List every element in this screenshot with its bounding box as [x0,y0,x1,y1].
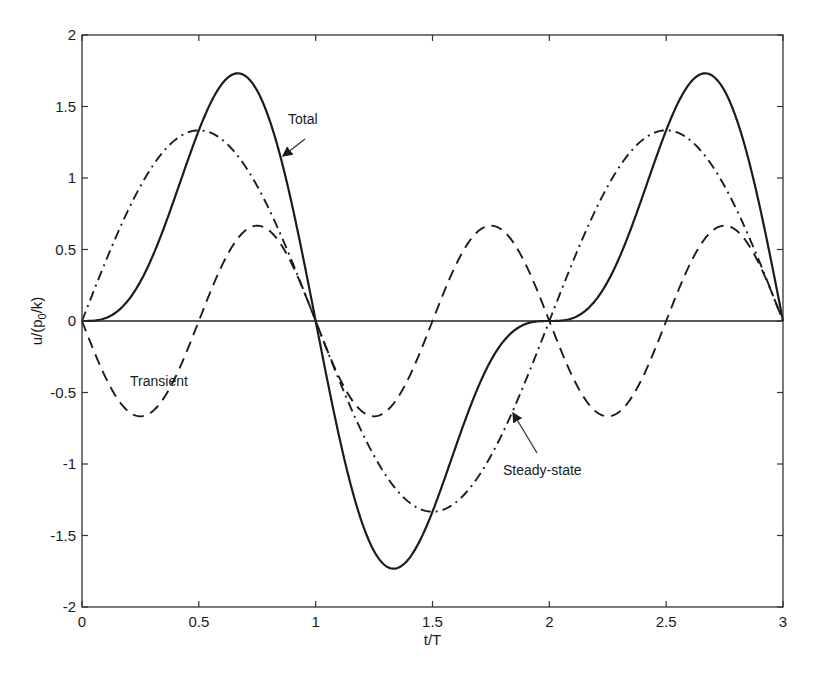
annotation-arrow-icon [513,413,537,453]
y-label-tail: /k) [28,297,45,314]
y-tick-label: 0.5 [55,241,76,258]
y-tick-label: 0 [68,312,76,329]
x-tick-label: 2.5 [656,613,677,630]
x-tick-label: 3 [779,613,787,630]
annotation-total: Total [288,111,318,127]
y-tick-label: -0.5 [50,384,76,401]
axes: 00.511.522.5321.510.50-0.5-1-1.5-2t/Tu/(… [28,26,787,648]
annotation-arrow-icon [283,139,305,156]
y-tick-label: 1 [68,169,76,186]
y-tick-label: -2 [63,598,76,615]
y-tick-label: -1 [63,455,76,472]
x-tick-label: 1.5 [422,613,443,630]
x-tick-label: 0 [78,613,86,630]
y-axis-label: u/(p0/k) [28,297,48,346]
annotation-transient: Transient [130,373,188,389]
annotation-steady-state: Steady-state [503,462,582,478]
y-tick-label: -1.5 [50,527,76,544]
annotations: TotalTransientSteady-state [130,111,582,478]
x-tick-label: 1 [311,613,319,630]
y-label-main: u/(p [28,319,45,345]
x-tick-label: 0.5 [188,613,209,630]
x-tick-label: 2 [545,613,553,630]
y-tick-label: 2 [68,26,76,43]
response-chart: 00.511.522.5321.510.50-0.5-1-1.5-2t/Tu/(… [0,0,815,684]
y-tick-label: 1.5 [55,98,76,115]
x-axis-label: t/T [424,631,442,648]
